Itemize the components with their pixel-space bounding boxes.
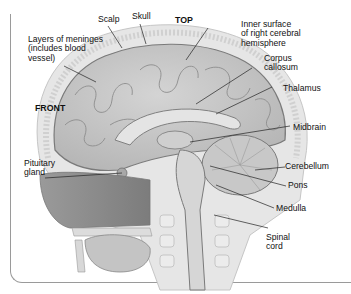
- tongue: [85, 235, 150, 272]
- label-cerebellum: Cerebellum: [285, 162, 329, 171]
- label-midbrain: Midbrain: [293, 123, 326, 132]
- label-thalamus: Thalamus: [283, 84, 321, 93]
- label-pons: Pons: [288, 181, 308, 190]
- lower-jaw: [75, 240, 85, 272]
- label-inner-surface: Inner surface of right cerebral hemisphe…: [241, 20, 301, 48]
- label-pituitary: Pituitary gland: [24, 159, 55, 178]
- nasal-cavity: [40, 172, 150, 228]
- label-scalp: Scalp: [98, 15, 120, 24]
- label-meninges: Layers of meninges (includes blood vesse…: [28, 35, 103, 63]
- label-top: TOP: [175, 16, 193, 25]
- label-medulla: Medulla: [276, 204, 306, 213]
- label-corpus-callosum: Corpus callosum: [264, 54, 298, 73]
- thalamus-shape: [157, 131, 193, 149]
- label-spinal-cord: Spinal cord: [266, 233, 290, 252]
- label-skull: Skull: [132, 12, 151, 21]
- label-front: FRONT: [35, 104, 65, 113]
